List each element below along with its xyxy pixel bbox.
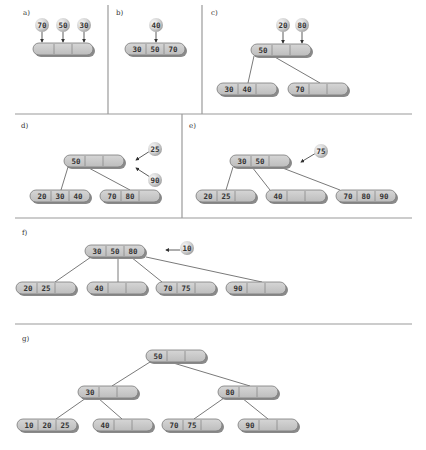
node-key: 10: [24, 421, 34, 430]
tree-edge: [146, 257, 262, 282]
tree-node: 7075: [156, 282, 218, 296]
node-key: 40: [100, 421, 110, 430]
tree-node: [33, 43, 95, 57]
tree-edge: [226, 167, 233, 190]
tree-node: 7080: [100, 190, 162, 204]
node-key: 25: [60, 421, 69, 430]
node-key: 70: [295, 85, 305, 94]
incoming-key-value: 70: [37, 21, 47, 30]
incoming-key-value: 25: [150, 145, 159, 154]
panel-c: c)503040702080: [211, 9, 350, 97]
incoming-key: 30: [77, 18, 91, 42]
node-key: 80: [361, 192, 371, 201]
node-key: 80: [128, 247, 138, 256]
node-body: [33, 43, 93, 55]
incoming-key: 10: [166, 241, 194, 255]
insert-arrow-icon: [136, 168, 150, 177]
node-key: 50: [110, 247, 120, 256]
tree-node: 305080: [85, 245, 147, 259]
tree-edge: [61, 167, 68, 190]
panel-e: e)305020254070809075: [189, 122, 398, 204]
incoming-key-value: 50: [58, 21, 68, 30]
tree-edge: [248, 56, 254, 83]
tree-edge: [194, 398, 224, 419]
incoming-key: 25: [136, 142, 162, 160]
node-key: 30: [55, 192, 65, 201]
tree-edge: [56, 398, 86, 419]
panel-d: d)5020304070802590: [21, 122, 162, 204]
node-key: 30: [92, 247, 102, 256]
tree-node: 3040: [217, 83, 279, 97]
tree-node: 90: [226, 282, 288, 296]
incoming-key-value: 10: [182, 244, 192, 253]
panels: a)705030b)30507040c)503040702080d)502030…: [16, 9, 398, 433]
incoming-key: 50: [56, 18, 70, 42]
node-key: 40: [73, 192, 83, 201]
incoming-key-value: 75: [316, 147, 325, 156]
node-key: 50: [150, 45, 160, 54]
tree-node: 708090: [336, 190, 398, 204]
node-key: 30: [85, 388, 95, 397]
incoming-key: 90: [136, 168, 162, 187]
node-key: 75: [181, 284, 190, 293]
tree-node: 305070: [125, 43, 187, 57]
tree-node: 30: [78, 386, 140, 400]
tree-edge: [112, 362, 150, 386]
panel-g: g)50308010202540707590: [17, 335, 300, 433]
tree-node: 70: [288, 83, 350, 97]
incoming-key: 70: [35, 18, 49, 42]
incoming-key: 75: [301, 144, 328, 162]
node-key: 80: [125, 192, 135, 201]
tree-edge: [131, 257, 162, 282]
panel-b: b)30507040: [116, 9, 187, 57]
panel-label: e): [189, 122, 196, 130]
node-key: 30: [237, 157, 247, 166]
node-key: 30: [224, 85, 234, 94]
node-key: 70: [107, 192, 117, 201]
panel-label: a): [23, 9, 30, 17]
node-key: 50: [255, 157, 265, 166]
insert-arrow-icon: [301, 153, 316, 162]
node-key: 90: [233, 284, 243, 293]
tree-node: 40: [93, 419, 155, 433]
tree-edge: [170, 362, 250, 386]
tree-node: 40: [266, 190, 328, 204]
tree-node: 102025: [17, 419, 79, 433]
tree-node: 90: [238, 419, 300, 433]
panel-label: b): [116, 9, 123, 17]
panel-f: f)30508020254070759010: [16, 229, 288, 296]
tree-node: 203040: [30, 190, 92, 204]
panel-label: d): [21, 122, 28, 130]
tree-insertion-diagram: a)705030b)30507040c)503040702080d)502030…: [0, 0, 426, 450]
node-key: 20: [37, 192, 47, 201]
panel-label: g): [22, 335, 29, 343]
node-key: 40: [94, 284, 104, 293]
tree-edge: [242, 398, 268, 419]
node-key: 70: [343, 192, 353, 201]
tree-edge: [252, 167, 270, 190]
tree-node: 50: [251, 44, 313, 58]
tree-edge: [280, 167, 340, 190]
incoming-key-value: 40: [151, 21, 161, 30]
incoming-key: 80: [295, 18, 309, 43]
tree-node: 40: [87, 282, 149, 296]
node-key: 25: [41, 284, 50, 293]
tree-edge: [273, 56, 320, 83]
insert-arrow-icon: [136, 151, 150, 160]
incoming-key-value: 20: [278, 21, 288, 30]
incoming-key-value: 80: [297, 21, 307, 30]
tree-edge: [55, 257, 91, 282]
node-key: 40: [273, 192, 283, 201]
node-key: 30: [132, 45, 142, 54]
panel-label: c): [211, 9, 218, 17]
node-key: 90: [245, 421, 255, 430]
tree-edge: [87, 167, 130, 190]
node-key: 25: [221, 192, 230, 201]
incoming-key: 20: [276, 18, 290, 43]
incoming-key: 40: [149, 18, 163, 42]
node-key: 20: [23, 284, 33, 293]
node-key: 20: [42, 421, 52, 430]
tree-node: 7075: [162, 419, 224, 433]
tree-node: 2025: [196, 190, 258, 204]
node-key: 50: [153, 352, 163, 361]
